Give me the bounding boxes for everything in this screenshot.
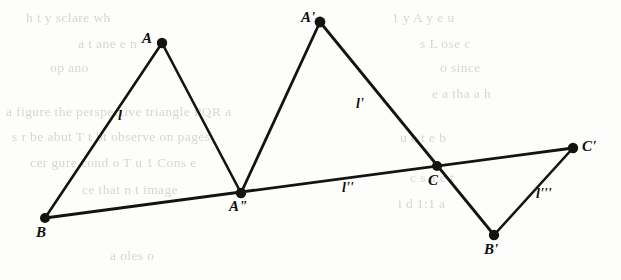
vertex-dot-Bprime [489,230,499,240]
seg-B-A [45,43,162,218]
point-label-A: A [142,30,152,47]
vertex-dot-A2 [236,188,246,198]
geometry-diagram [0,0,621,280]
label-lpp: l'' [342,180,354,196]
point-label-C: C [428,172,438,189]
seg-A2-Aprime [241,22,320,193]
point-label-Aprime: A' [301,9,315,26]
label-l: l [118,108,122,124]
point-label-Bprime: B' [484,241,498,258]
seg-A-A2 [162,43,241,193]
vertex-dot-Cprime [568,143,578,153]
label-lppp: l''' [536,186,552,202]
point-label-Cprime: C' [582,138,596,155]
figure-canvas: h t y sclare wh a t ane e n op ano a fig… [0,0,621,280]
seg-Bprime-Cprime [494,148,573,235]
label-lp: l' [356,96,364,112]
point-label-A2: A" [229,198,247,215]
vertex-dot-B [40,213,50,223]
vertex-dot-C [432,161,442,171]
point-label-B: B [36,224,46,241]
seg-Aprime-Bprime [320,22,494,235]
vertex-dot-Aprime [315,17,326,28]
vertex-dot-A [157,38,167,48]
seg-B-Cprime [45,148,573,218]
segment-group [45,22,573,235]
